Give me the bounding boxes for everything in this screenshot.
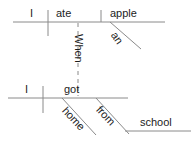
word-verb-subordinate: got (64, 84, 79, 95)
word-direct-object: apple (110, 8, 137, 19)
word-subordinator-when: When (73, 34, 84, 63)
word-subject-subordinate: I (25, 84, 28, 95)
word-subject-main: I (30, 8, 33, 19)
word-verb-main: ate (56, 8, 71, 19)
word-object-of-preposition: school (140, 117, 172, 128)
sentence-diagram: I ate apple an When I got home from scho… (0, 0, 193, 144)
